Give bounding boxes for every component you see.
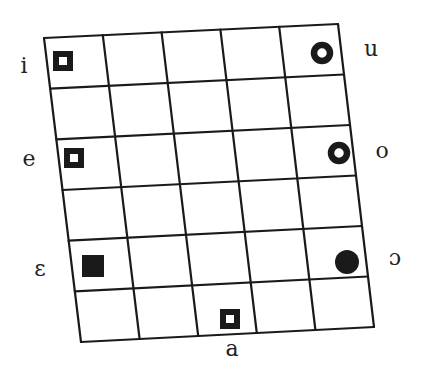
grid-border: [44, 24, 338, 38]
vowel-label: o: [375, 138, 388, 163]
vowel-label: ɔ: [389, 245, 401, 270]
grid-row-line: [63, 176, 357, 191]
vowel-markers: [53, 45, 359, 329]
vowel-label: a: [225, 336, 238, 361]
grid-row-line: [56, 125, 350, 139]
vowel-label: u: [364, 36, 378, 61]
grid-row-line: [75, 277, 368, 292]
grid-row-line: [50, 75, 344, 89]
hollow-square-icon: [64, 148, 84, 168]
vowel-label: i: [20, 53, 27, 78]
ring-icon: [314, 45, 330, 61]
ring-icon: [331, 145, 347, 161]
grid-row-line: [69, 226, 362, 241]
vowel-chart: iueoɛɔa: [0, 0, 421, 374]
hollow-square-icon: [220, 309, 240, 329]
filled-square-icon: [82, 255, 104, 277]
filled-circle-icon: [335, 250, 359, 274]
vowel-label: e: [22, 146, 35, 171]
hollow-square-icon: [53, 51, 73, 71]
chart-grid: [44, 24, 374, 342]
vowel-label: ɛ: [34, 256, 45, 281]
